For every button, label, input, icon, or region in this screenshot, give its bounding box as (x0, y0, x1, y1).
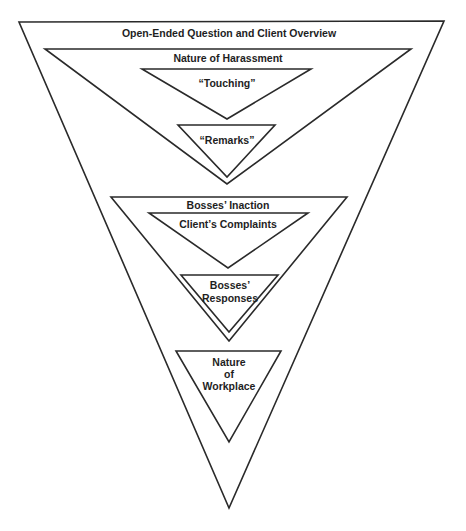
label-workplace-line2: of (224, 368, 234, 380)
label-overview: Open-Ended Question and Client Overview (122, 27, 337, 39)
label-inaction: Bosses’ Inaction (187, 199, 270, 211)
triangle-overview (19, 21, 444, 508)
label-remarks: “Remarks” (200, 134, 255, 146)
label-workplace-line3: Workplace (203, 380, 256, 392)
label-responses-line1: Bosses’ (210, 279, 250, 291)
label-complaints: Client’s Complaints (179, 218, 277, 230)
label-responses-line2: Responses (202, 292, 258, 304)
label-harassment: Nature of Harassment (173, 52, 283, 64)
funnel-diagram: Open-Ended Question and Client Overview … (0, 0, 466, 531)
label-workplace-line1: Nature (212, 356, 245, 368)
triangle-remarks (178, 125, 275, 177)
label-touching: “Touching” (199, 77, 256, 89)
